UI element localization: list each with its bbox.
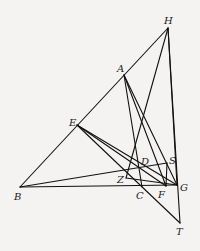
geometry-figure: HAEBCFGDSZT — [0, 0, 200, 251]
figure-canvas: HAEBCFGDSZT — [0, 0, 200, 251]
point-label-H: H — [163, 15, 173, 26]
line-segments — [20, 28, 180, 223]
point-label-T: T — [176, 226, 184, 237]
segment-HT — [168, 28, 180, 223]
segment-SF — [166, 163, 167, 186]
point-label-E: E — [68, 117, 77, 128]
point-label-D: D — [140, 156, 149, 167]
point-label-G: G — [180, 182, 188, 193]
point-label-A: A — [116, 63, 124, 74]
segment-ET — [77, 125, 180, 223]
point-label-Z: Z — [116, 174, 125, 185]
segment-ZG — [126, 178, 177, 185]
point-label-B: B — [13, 191, 21, 202]
point-label-F: F — [157, 189, 166, 200]
point-label-S: S — [169, 155, 176, 166]
point-label-C: C — [136, 190, 144, 201]
segment-BG — [20, 185, 177, 187]
